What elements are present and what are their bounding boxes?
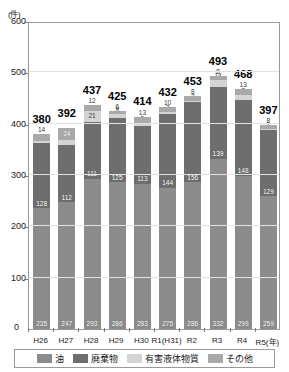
segment-value-label: 13 [240, 82, 247, 89]
x-axis-tick-mark [179, 328, 180, 332]
y-axis-tick-label: 100 [0, 273, 26, 283]
x-axis-label-R5: R5(年) [256, 336, 280, 347]
bar-segment-waste: 128 [33, 143, 50, 209]
legend-label-oil: 油 [55, 352, 64, 365]
segment-value-label: 156 [187, 175, 198, 182]
y-axis-tick-mark [24, 176, 28, 177]
bar-H28[interactable]: 2931112112437 [84, 105, 101, 329]
bar-segment-other: 8 [260, 125, 277, 129]
segment-value-label: 24 [63, 131, 70, 138]
bar-segment-other: 6 [109, 111, 126, 114]
bar-segment-hazardous: 1 [260, 129, 277, 130]
bar-segment-oil: 332 [210, 159, 227, 329]
bar-segment-hazardous: 3 [33, 141, 50, 143]
x-axis-label-H30: H30 [134, 336, 149, 345]
legend-swatch-other [208, 354, 223, 363]
bar-segment-waste: 148 [235, 100, 252, 176]
legend-swatch-oil [37, 354, 52, 363]
y-axis-tick-label: 300 [0, 170, 26, 180]
bar-total-label: 437 [83, 84, 101, 96]
x-axis-tick-mark [154, 328, 155, 332]
bar-H30[interactable]: 283113513414 [134, 117, 151, 330]
bar-total-label: 432 [158, 86, 176, 98]
bar-total-label: 392 [58, 107, 76, 119]
bar-R2[interactable]: 28615638453 [184, 96, 201, 329]
x-axis-tick-mark [53, 328, 54, 332]
grid-line [29, 277, 279, 278]
bar-segment-other: 10 [159, 107, 176, 112]
bar-segment-hazardous: 8 [109, 114, 126, 118]
segment-value-label: 113 [137, 176, 147, 183]
segment-value-label: 286 [187, 321, 198, 328]
segment-value-label: 8 [267, 118, 271, 125]
bar-segment-oil: 286 [184, 182, 201, 329]
segment-value-label: 8 [191, 89, 195, 96]
bar-total-label: 453 [184, 75, 202, 87]
x-axis-label-H26: H26 [33, 336, 48, 345]
segment-value-label: 14 [38, 127, 45, 134]
y-axis-tick-label: 200 [0, 221, 26, 231]
bar-segment-other: 8 [210, 76, 227, 80]
legend-item-oil[interactable]: 油 [37, 352, 64, 365]
y-axis-tick-mark [24, 73, 28, 74]
segment-value-label: 6 [115, 104, 119, 111]
y-axis-tick-label: 600 [0, 16, 26, 26]
bar-R5[interactable]: 25912918397 [260, 125, 277, 329]
legend-label-hazardous: 有害液体物質 [145, 352, 199, 365]
legend-label-other: その他 [226, 352, 253, 365]
bar-H27[interactable]: 247112924392 [58, 128, 75, 329]
bar-R4[interactable]: 299148813468 [235, 89, 252, 329]
segment-value-label: 129 [263, 189, 274, 196]
x-axis-label-H27: H27 [58, 336, 73, 345]
segment-value-label: 235 [36, 321, 47, 328]
x-axis-label-R1H31: R1(H31) [151, 336, 181, 345]
x-axis-tick-mark [104, 328, 105, 332]
segment-value-label: 259 [263, 321, 274, 328]
segment-value-label: 125 [112, 175, 123, 182]
legend-item-other[interactable]: その他 [208, 352, 253, 365]
bar-total-label: 493 [209, 55, 227, 67]
bar-segment-other: 13 [235, 89, 252, 96]
bar-segment-waste: 144 [159, 114, 176, 188]
segment-value-label: 12 [88, 98, 95, 105]
segment-value-label: 332 [213, 321, 224, 328]
bar-segment-oil: 259 [260, 196, 277, 329]
y-axis-tick-label: 500 [0, 67, 26, 77]
segment-value-label: 10 [164, 100, 171, 107]
bar-segment-waste: 111 [84, 122, 101, 179]
y-axis-tick-mark [24, 227, 28, 228]
bar-total-label: 425 [108, 90, 126, 102]
bar-segment-oil: 283 [134, 184, 151, 329]
x-axis-tick-mark [28, 328, 29, 332]
bar-segment-oil: 299 [235, 176, 252, 329]
segment-value-label: 275 [162, 321, 173, 328]
segment-value-label: 247 [61, 321, 72, 328]
bar-R3[interactable]: 332139148493 [210, 76, 227, 329]
y-axis-zero-label: 0 [14, 322, 19, 332]
legend-item-waste[interactable]: 廃棄物 [73, 352, 118, 365]
legend-item-hazardous[interactable]: 有害液体物質 [127, 352, 199, 365]
bar-H29[interactable]: 28612586425 [109, 111, 126, 329]
bar-R1H31[interactable]: 275144310432 [159, 107, 176, 329]
x-axis-tick-mark [78, 328, 79, 332]
y-axis-tick-mark [24, 279, 28, 280]
bar-total-label: 414 [133, 95, 151, 107]
bar-segment-oil: 275 [159, 188, 176, 329]
segment-value-label: 283 [137, 321, 148, 328]
bar-segment-other: 12 [84, 105, 101, 111]
legend-swatch-waste [73, 354, 88, 363]
y-axis-tick-mark [24, 125, 28, 126]
plot-area: 2351283143802471129243922931112112437286… [28, 22, 280, 330]
x-axis-label-H29: H29 [109, 336, 124, 345]
chart-root: (件) 235128314380247112924392293111211243… [0, 0, 289, 372]
y-axis-tick-label: 400 [0, 119, 26, 129]
bar-segment-hazardous: 21 [84, 111, 101, 122]
bar-group: 2351283143802471129243922931112112437286… [29, 23, 279, 329]
chart-legend: 油廃棄物有害液体物質その他 [14, 349, 275, 368]
bar-H26[interactable]: 235128314380 [33, 134, 50, 329]
x-axis-tick-mark [129, 328, 130, 332]
bar-segment-hazardous: 3 [184, 101, 201, 103]
segment-value-label: 21 [88, 113, 95, 120]
grid-line [29, 123, 279, 124]
bar-segment-oil: 286 [109, 182, 126, 329]
